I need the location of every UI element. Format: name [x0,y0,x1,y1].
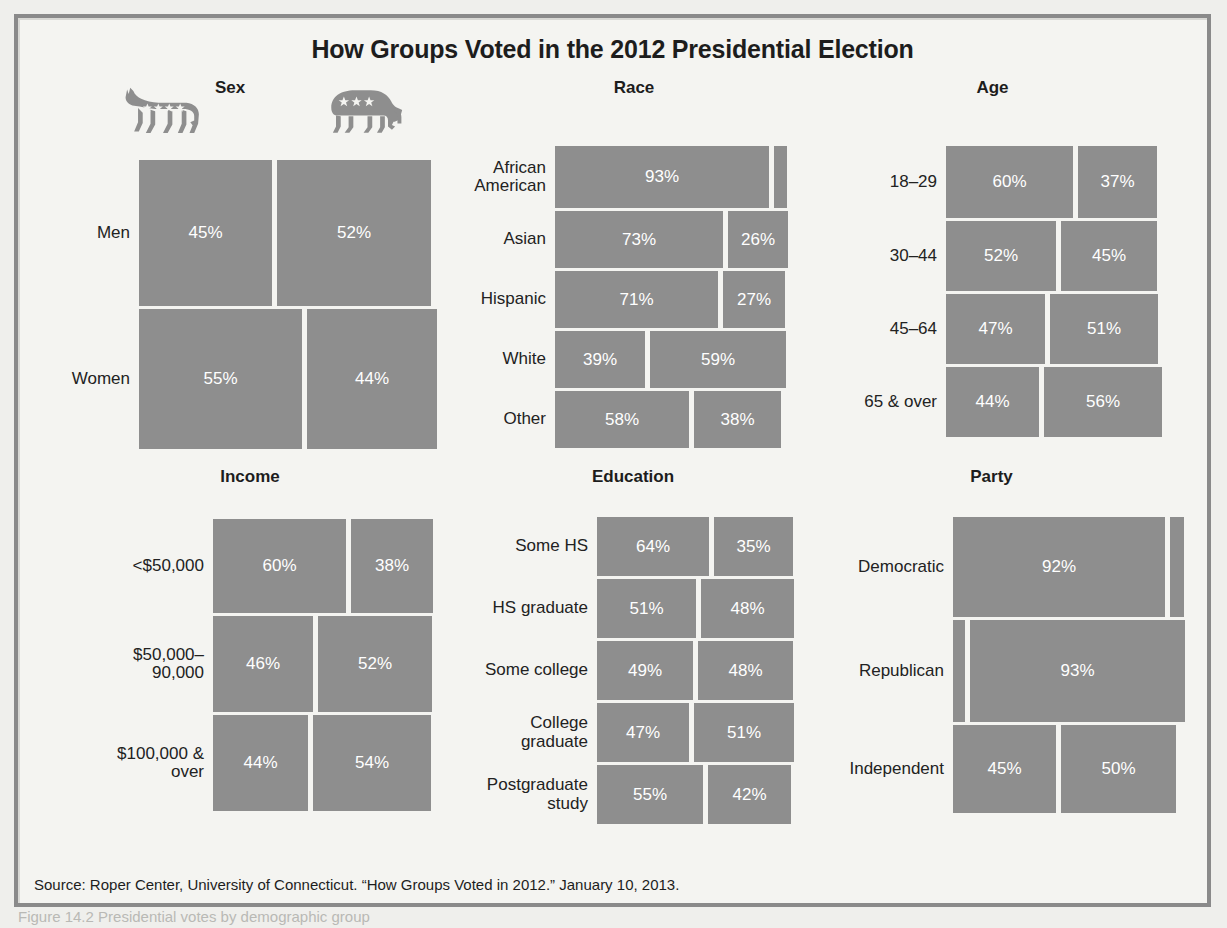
panel-title-income: Income [78,467,422,487]
bar-label: Independent [822,725,953,813]
bar-label: 18–29 [822,146,946,218]
segment-republican: 48% [701,579,794,638]
bar-label: Some HS [422,517,597,576]
bar-label: Democratic [822,517,953,617]
bar-label: 30–44 [822,221,946,291]
bar-row: $100,000 & over 44% 54% [34,715,422,811]
bar-track: 58% 38% [555,391,822,448]
segment-republican: 48% [698,641,793,700]
bar-row: <$50,000 60% 38% [34,519,422,613]
panel-party: Party Democratic 92% Republican 93% [822,467,1207,824]
segment-democratic: 73% [555,211,723,268]
bar-track: 47% 51% [946,294,1207,364]
bar-row: Women 55% 44% [34,309,422,449]
segment-democratic: 45% [139,160,272,306]
bar-track: 64% 35% [597,517,822,576]
segment-democratic: 92% [953,517,1165,617]
segment-republican: 26% [728,211,788,268]
bar-track: 44% 54% [213,715,431,811]
segment-republican: 50% [1061,725,1176,813]
segment-republican: 42% [708,765,791,824]
bar-row: Republican 93% [822,620,1207,722]
bar-track: 93% [555,146,822,208]
bar-row: Hispanic 71% 27% [422,271,822,328]
panel-row-bottom: Income <$50,000 60% 38% $50,000– 90,000 … [18,467,1207,824]
segment-republican [1170,517,1184,617]
bars-education: Some HS 64% 35% HS graduate 51% 48% Some… [422,517,822,824]
bar-row: Other 58% 38% [422,391,822,448]
bar-label: African American [422,146,555,208]
bar-track: 60% 37% [946,146,1207,218]
bar-track: 44% 56% [946,367,1207,437]
bar-label: Asian [422,211,555,268]
segment-democratic: 44% [946,367,1039,437]
bars-income: <$50,000 60% 38% $50,000– 90,000 46% 52%… [34,519,422,811]
segment-republican: 45% [1061,221,1157,291]
segment-republican: 52% [277,160,431,306]
bar-row: Asian 73% 26% [422,211,822,268]
bar-track: 93% [953,620,1207,722]
segment-republican: 35% [714,517,793,576]
bar-label: $100,000 & over [34,715,213,811]
bar-row: $50,000– 90,000 46% 52% [34,616,422,712]
bar-row: Some college 49% 48% [422,641,822,700]
panel-title-party: Party [822,467,1161,487]
bar-label: Hispanic [422,271,555,328]
bars-race: African American 93% Asian 73% 26% Hispa… [422,146,822,448]
bar-track: 92% [953,517,1207,617]
segment-republican: 38% [694,391,781,448]
bar-track: 52% 45% [946,221,1207,291]
panel-sex: Sex [18,64,422,449]
bars-party: Democratic 92% Republican 93% Independen… [822,517,1207,813]
bar-label: HS graduate [422,579,597,638]
republican-elephant-icon [318,84,396,136]
bar-label: 65 & over [822,367,946,437]
segment-republican: 52% [318,616,432,712]
segment-republican: 38% [351,519,433,613]
segment-republican: 51% [1050,294,1158,364]
bar-track: 73% 26% [555,211,822,268]
bar-label: Women [34,309,139,449]
bar-track: 47% 51% [597,703,822,762]
bar-row: African American 93% [422,146,822,208]
segment-republican: 93% [970,620,1185,722]
segment-democratic: 71% [555,271,718,328]
bar-label: <$50,000 [34,519,213,613]
segment-democratic: 39% [555,331,645,388]
bar-track: 60% 38% [213,519,433,613]
figure-caption: Figure 14.2 Presidential votes by demogr… [18,908,370,925]
bar-track: 51% 48% [597,579,822,638]
bars-age: 18–29 60% 37% 30–44 52% 45% 45–64 [822,146,1207,437]
bar-row: Democratic 92% [822,517,1207,617]
panel-education: Education Some HS 64% 35% HS graduate 51… [422,467,822,824]
segment-democratic: 47% [946,294,1045,364]
bar-label: White [422,331,555,388]
bar-row: HS graduate 51% 48% [422,579,822,638]
bar-row: 30–44 52% 45% [822,221,1207,291]
bar-row: Postgraduate study 55% 42% [422,765,822,824]
bar-label: Other [422,391,555,448]
segment-democratic: 46% [213,616,313,712]
segment-democratic: 60% [213,519,346,613]
bar-label: 45–64 [822,294,946,364]
panel-row-top: Sex [18,64,1207,449]
segment-republican: 37% [1078,146,1157,218]
bar-track: 46% 52% [213,616,432,712]
bar-row: Some HS 64% 35% [422,517,822,576]
panel-age: Age 18–29 60% 37% 30–44 52% 45% [822,64,1207,449]
bar-label: $50,000– 90,000 [34,616,213,712]
segment-democratic: 52% [946,221,1056,291]
bar-row: 18–29 60% 37% [822,146,1207,218]
segment-democratic: 60% [946,146,1073,218]
segment-republican: 56% [1044,367,1162,437]
segment-democratic: 64% [597,517,709,576]
panel-title-age: Age [822,78,1163,98]
panel-title-education: Education [444,467,822,487]
segment-democratic [953,620,965,722]
panel-income: Income <$50,000 60% 38% $50,000– 90,000 … [18,467,422,824]
bar-track: 55% 42% [597,765,822,824]
bar-label: College graduate [422,703,597,762]
bars-sex: Men 45% 52% Women 55% 44% [34,160,422,449]
bar-row: Men 45% 52% [34,160,422,306]
bar-label: Some college [422,641,597,700]
